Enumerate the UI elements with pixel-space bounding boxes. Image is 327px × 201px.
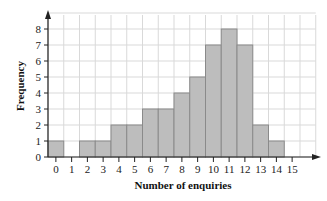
x-tick-label: 13 — [255, 163, 267, 175]
bar — [127, 125, 143, 157]
x-tick-label: 7 — [163, 163, 169, 175]
x-tick-label: 4 — [116, 163, 122, 175]
y-tick-label: 6 — [36, 55, 42, 67]
histogram-chart: 012345678 0123456789101112131415 Number … — [0, 0, 327, 201]
bar — [253, 125, 269, 157]
y-tick-label: 5 — [36, 71, 42, 83]
x-axis-arrow-icon — [312, 154, 321, 160]
x-tick-label: 14 — [271, 163, 283, 175]
x-tick-label: 15 — [287, 163, 299, 175]
x-tick-label: 10 — [208, 163, 220, 175]
x-tick-label: 6 — [148, 163, 154, 175]
y-tick-label: 8 — [36, 23, 42, 35]
bar — [237, 45, 253, 157]
bar — [190, 77, 206, 157]
y-tick-label: 4 — [36, 87, 42, 99]
x-tick-label: 1 — [69, 163, 75, 175]
bar — [80, 141, 96, 157]
bar — [269, 141, 285, 157]
y-axis-title: Frequency — [14, 61, 26, 111]
x-tick-label: 8 — [179, 163, 185, 175]
x-tick-labels: 0123456789101112131415 — [53, 157, 298, 175]
x-tick-label: 0 — [53, 163, 59, 175]
bar — [158, 109, 174, 157]
x-tick-label: 3 — [100, 163, 106, 175]
x-axis-title: Number of enquiries — [135, 179, 233, 191]
bar — [174, 93, 190, 157]
x-tick-label: 9 — [195, 163, 201, 175]
y-tick-labels: 012345678 — [36, 23, 49, 163]
bar — [48, 141, 64, 157]
y-axis-arrow-icon — [45, 10, 51, 19]
x-tick-label: 2 — [85, 163, 91, 175]
bar — [206, 45, 222, 157]
y-tick-label: 0 — [36, 151, 42, 163]
y-tick-label: 2 — [36, 119, 42, 131]
y-tick-label: 1 — [36, 135, 42, 147]
bar — [111, 125, 127, 157]
y-tick-label: 7 — [36, 39, 42, 51]
x-tick-label: 12 — [239, 163, 250, 175]
y-tick-label: 3 — [36, 103, 42, 115]
x-tick-label: 11 — [224, 163, 235, 175]
bar — [221, 29, 237, 157]
x-tick-label: 5 — [132, 163, 138, 175]
bar — [143, 109, 159, 157]
bar — [95, 141, 111, 157]
